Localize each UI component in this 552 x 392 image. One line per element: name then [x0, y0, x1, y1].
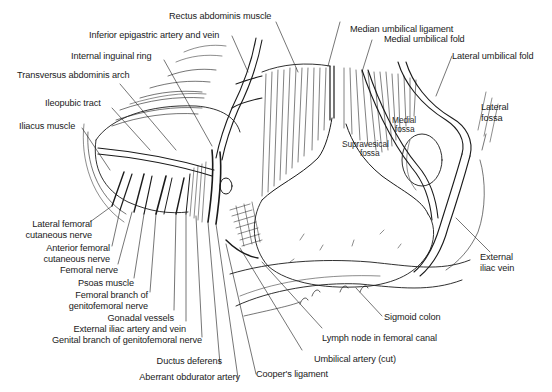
- label-supravesical-fossa-line2: fossa: [360, 149, 380, 158]
- label-rectus-abdominis: Rectus abdominis muscle: [169, 11, 271, 22]
- label-coopers-ligament: Cooper's ligament: [256, 369, 328, 380]
- label-genital-branch: Genital branch of genitofemoral nerve: [20, 335, 202, 346]
- label-lateral-fossa-line2: fossa: [481, 113, 502, 124]
- label-lateral-fossa-line1: Lateral: [481, 102, 508, 113]
- label-gonadal-vessels: Gonadal vessels: [90, 313, 174, 324]
- label-psoas-muscle: Psoas muscle: [62, 278, 134, 289]
- label-ileopubic-tract: Ileopubic tract: [45, 98, 101, 109]
- label-anterior-femoral-cutaneous-line2: cutaneous nerve: [34, 254, 110, 265]
- label-median-umbilical-ligament: Median umbilical ligament: [350, 24, 453, 35]
- label-lateral-femoral-cutaneous-line2: cutaneous nerve: [17, 230, 92, 241]
- label-external-iliac-artery-vein: External iliac artery and vein: [44, 324, 186, 335]
- label-ductus-deferens: Ductus deferens: [142, 356, 222, 367]
- femoral-canal-region: [226, 202, 262, 258]
- label-femoral-branch-line2: genitofemoral nerve: [50, 301, 148, 312]
- label-umbilical-artery-cut: Umbilical artery (cut): [314, 354, 396, 365]
- anatomy-figure: Rectus abdominis muscle Inferior epigast…: [0, 0, 552, 392]
- sigmoid-colon: [230, 260, 470, 316]
- label-lymph-node-femoral-canal: Lymph node in femoral canal: [322, 333, 437, 344]
- label-femoral-nerve: Femoral nerve: [48, 265, 118, 276]
- label-external-iliac-vein-line2: iliac vein: [480, 263, 514, 274]
- label-lateral-femoral-cutaneous-line1: Lateral femoral: [24, 219, 92, 230]
- label-iliacus-muscle: Iliacus muscle: [19, 121, 75, 132]
- label-internal-inguinal-ring: Internal inguinal ring: [71, 51, 152, 62]
- label-femoral-branch-line1: Femoral branch of: [60, 290, 148, 301]
- label-external-iliac-vein-line1: External: [480, 252, 513, 263]
- label-aberrant-obturator-artery: Aberrant obdurator artery: [120, 372, 240, 383]
- label-sigmoid-colon: Sigmoid colon: [384, 312, 440, 323]
- label-anterior-femoral-cutaneous-line1: Anterior femoral: [38, 243, 110, 254]
- epigastric-vessels: [208, 38, 262, 224]
- label-lateral-umbilical-fold: Lateral umbilical fold: [452, 51, 534, 62]
- rectus-abdominis: [262, 64, 416, 196]
- label-transversus-abdominis-arch: Transversus abdominis arch: [17, 70, 129, 81]
- label-inferior-epigastric: Inferior epigastric artery and vein: [89, 30, 219, 41]
- label-medial-fossa-line2: fossa: [395, 125, 415, 134]
- label-medial-umbilical-fold: Medial umbilical fold: [384, 34, 465, 45]
